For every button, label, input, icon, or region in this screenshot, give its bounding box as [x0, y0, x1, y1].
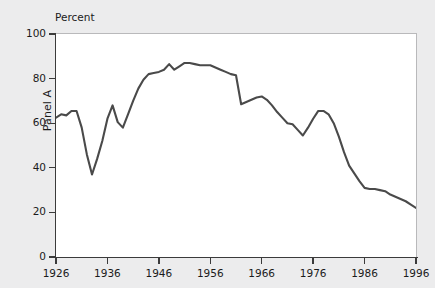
x-tick-label: 1946	[137, 267, 181, 279]
y-axis-spine	[55, 33, 56, 259]
y-axis-units-label: Percent	[55, 11, 95, 23]
x-tick-label: 1996	[394, 267, 435, 279]
x-tick-mark	[261, 258, 262, 264]
y-tick-label: 40	[6, 161, 46, 173]
plot-area	[55, 33, 417, 258]
x-tick-mark	[210, 258, 211, 264]
x-tick-label: 1966	[240, 267, 284, 279]
x-tick-label: 1986	[343, 267, 387, 279]
y-tick-label: 0	[6, 250, 46, 262]
y-tick-mark	[49, 212, 55, 213]
y-tick-mark	[49, 256, 55, 257]
y-tick-label: 80	[6, 72, 46, 84]
x-tick-mark	[415, 258, 416, 264]
y-tick-label: 100	[6, 27, 46, 39]
x-tick-label: 1926	[34, 267, 78, 279]
x-tick-label: 1936	[85, 267, 129, 279]
x-tick-mark	[312, 258, 313, 264]
y-tick-label: 60	[6, 116, 46, 128]
y-tick-mark	[49, 123, 55, 124]
x-tick-mark	[107, 258, 108, 264]
y-tick-mark	[49, 33, 55, 34]
x-tick-label: 1976	[291, 267, 335, 279]
x-tick-label: 1956	[188, 267, 232, 279]
y-tick-label: 20	[6, 205, 46, 217]
chart-figure: Panel A Percent 020406080100 19261936194…	[0, 0, 435, 288]
y-tick-mark	[49, 167, 55, 168]
x-tick-mark	[158, 258, 159, 264]
y-tick-mark	[49, 78, 55, 79]
data-series-line	[56, 34, 416, 257]
x-tick-mark	[55, 258, 56, 264]
x-tick-mark	[364, 258, 365, 264]
